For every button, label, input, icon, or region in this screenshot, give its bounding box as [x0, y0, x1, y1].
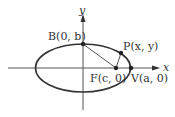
segment-f-p	[116, 53, 121, 68]
label-v: V(a, 0)	[130, 72, 168, 85]
segment-b-f	[83, 44, 116, 68]
label-p: P(x, y)	[123, 40, 158, 53]
label-f: F(c, 0)	[90, 72, 126, 85]
ellipse-diagram: y x B(0, b) P(x, y) F(c, 0) V(a, 0)	[0, 0, 175, 117]
label-b: B(0, b)	[48, 30, 86, 43]
x-axis-arrow-icon	[152, 66, 160, 71]
y-axis-label: y	[78, 4, 86, 17]
point-v	[129, 66, 133, 70]
point-f	[114, 66, 118, 70]
